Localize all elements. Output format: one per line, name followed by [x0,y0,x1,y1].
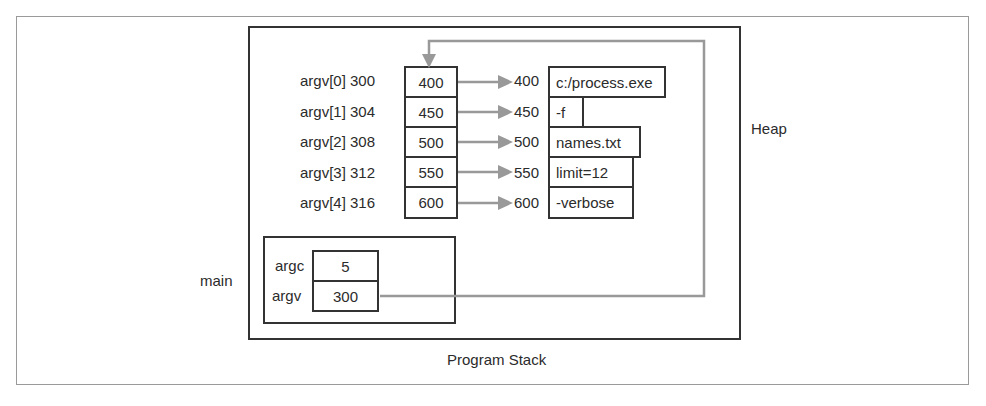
heap-addr-550: 550 [514,165,539,180]
heap-addr-450: 450 [514,104,539,119]
argc-label: argc [275,258,304,273]
heap-string-2: names.txt [556,135,621,150]
program-stack-label: Program Stack [447,352,546,367]
heap-string-1-cell: -f [548,96,584,128]
argv-0-pointer-cell: 400 [404,66,458,98]
heap-addr-600: 600 [514,195,539,210]
argc-value-cell: 5 [312,250,379,282]
argv-0-label: argv[0] 300 [300,73,375,88]
heap-string-0: c:/process.exe [556,75,653,90]
heap-string-1: -f [556,105,565,120]
heap-label: Heap [751,121,787,136]
heap-string-0-cell: c:/process.exe [548,66,666,98]
heap-string-4-cell: -verbose [548,186,634,219]
heap-addr-400: 400 [514,73,539,88]
argv-3-pointer: 550 [418,165,443,180]
argv-1-pointer-cell: 450 [404,96,458,128]
argc-value: 5 [341,259,349,274]
heap-string-4: -verbose [556,195,614,210]
argv-value: 300 [333,289,358,304]
argv-3-pointer-cell: 550 [404,156,458,188]
argv-1-label: argv[1] 304 [300,104,375,119]
argv-4-pointer-cell: 600 [404,186,458,219]
argv-2-pointer: 500 [418,135,443,150]
argv-0-pointer: 400 [418,75,443,90]
argv-4-label: argv[4] 316 [300,195,375,210]
argv-2-pointer-cell: 500 [404,126,458,158]
heap-string-3-cell: limit=12 [548,156,634,188]
argv-label: argv [272,288,301,303]
heap-string-2-cell: names.txt [548,126,641,158]
argv-4-pointer: 600 [418,195,443,210]
argv-3-label: argv[3] 312 [300,165,375,180]
argv-1-pointer: 450 [418,105,443,120]
argv-value-cell: 300 [312,280,379,312]
main-label: main [200,273,233,288]
heap-addr-500: 500 [514,134,539,149]
heap-string-3: limit=12 [556,165,608,180]
argv-2-label: argv[2] 308 [300,134,375,149]
